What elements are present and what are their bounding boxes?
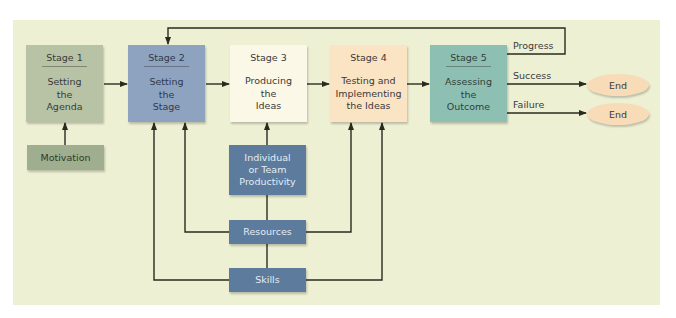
stage-2-box: Stage 2 Setting the Stage (128, 45, 205, 122)
stage-1-description: Setting the Agenda (46, 76, 82, 114)
stage-1-box: Stage 1 Setting the Agenda (26, 45, 103, 122)
stage-5-description: Assessing the Outcome (445, 76, 492, 114)
stage-1-title: Stage 1 (42, 52, 87, 67)
failure-label: Failure (513, 99, 544, 110)
stage-3-title: Stage 3 (246, 52, 291, 66)
end-failure-ellipse: End (587, 103, 649, 125)
stage-4-title: Stage 4 (346, 52, 391, 66)
stage-5-title: Stage 5 (446, 52, 491, 67)
stage-3-box: Stage 3 Producing the Ideas (230, 45, 307, 122)
progress-label: Progress (513, 40, 554, 51)
success-label: Success (513, 70, 551, 81)
skills-box: Skills (229, 268, 306, 292)
stage-4-box: Stage 4 Testing and Implementing the Ide… (330, 45, 407, 122)
individual-productivity-box: Individual or Team Productivity (229, 145, 306, 195)
motivation-box: Motivation (27, 145, 104, 170)
end-success-ellipse: End (587, 74, 649, 96)
stage-4-description: Testing and Implementing the Ideas (335, 75, 401, 113)
resources-box: Resources (229, 220, 306, 244)
stage-2-title: Stage 2 (144, 52, 189, 67)
stage-3-description: Producing the Ideas (245, 75, 292, 113)
stage-5-box: Stage 5 Assessing the Outcome (430, 45, 507, 122)
stage-2-description: Setting the Stage (149, 76, 183, 114)
